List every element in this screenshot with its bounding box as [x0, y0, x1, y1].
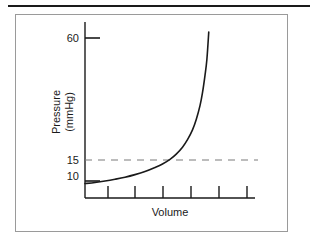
y-axis-title: Pressure (mmHg): [50, 90, 75, 134]
y-tick-label-60: 60: [67, 32, 79, 44]
y-tick-label-15: 15: [67, 154, 79, 166]
y-axis-title-line1: Pressure: [50, 90, 62, 134]
x-tick-marks: [108, 186, 247, 198]
y-axis-title-line2: (mmHg): [63, 92, 75, 132]
y-tick-label-10: 10: [67, 170, 79, 182]
plot-area: 60 15 10 Pressure (mmHg) Volume: [0, 0, 318, 244]
x-axis-title: Volume: [152, 206, 189, 218]
figure-root: 60 15 10 Pressure (mmHg) Volume: [0, 0, 318, 244]
pressure-volume-curve: [85, 32, 209, 183]
